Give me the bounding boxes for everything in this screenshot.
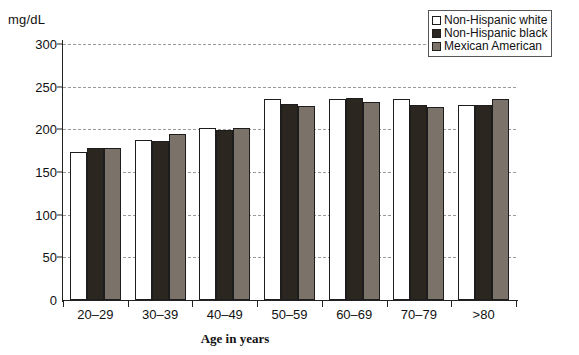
- bar: [492, 99, 509, 300]
- x-axis-tick-mark: [128, 300, 129, 307]
- y-axis-tick-label: 50: [11, 250, 57, 265]
- bar: [87, 148, 104, 300]
- bar-group: [451, 44, 516, 300]
- bar: [233, 128, 250, 300]
- x-axis-tick-mark: [451, 300, 452, 307]
- x-axis-tick-label: 20–29: [77, 307, 113, 322]
- bar: [298, 106, 315, 300]
- legend-swatch-icon: [432, 29, 441, 38]
- legend-item-label: Mexican American: [444, 40, 542, 53]
- bar: [281, 104, 298, 300]
- x-axis-tick-label: 60–69: [336, 307, 372, 322]
- bar: [216, 130, 233, 300]
- bar-group: [63, 44, 128, 300]
- bar-chart: mg/dL 050100150200250300 20–2930–3940–49…: [0, 0, 579, 355]
- legend: Non-Hispanic white Non-Hispanic black Me…: [428, 10, 552, 57]
- bar: [410, 105, 427, 300]
- x-axis-title: Age in years: [0, 331, 470, 347]
- plot-area: [63, 44, 516, 300]
- bar: [104, 148, 121, 300]
- y-axis-line: [62, 40, 63, 302]
- bar-group: [128, 44, 193, 300]
- bar: [70, 152, 87, 300]
- x-axis-line: [62, 300, 518, 301]
- x-axis-tick-label: 70–79: [401, 307, 437, 322]
- x-axis-tick-label: >80: [473, 307, 495, 322]
- bar: [169, 134, 186, 300]
- bar-group: [322, 44, 387, 300]
- x-axis-tick-label: 30–39: [142, 307, 178, 322]
- bar: [475, 105, 492, 300]
- bar: [135, 140, 152, 300]
- x-axis-tick-mark: [257, 300, 258, 307]
- y-axis-tick-label: 150: [11, 165, 57, 180]
- bar: [199, 128, 216, 300]
- x-axis-tick-label: 50–59: [271, 307, 307, 322]
- x-axis-tick-mark: [516, 300, 517, 307]
- bar-group: [192, 44, 257, 300]
- bar: [329, 99, 346, 300]
- bar: [264, 99, 281, 300]
- y-axis-tick-labels: 050100150200250300: [0, 0, 57, 355]
- x-axis-tick-mark: [192, 300, 193, 307]
- x-axis-tick-mark: [322, 300, 323, 307]
- y-axis-tick-label: 300: [11, 37, 57, 52]
- legend-swatch-icon: [432, 16, 441, 25]
- x-axis-tick-mark: [63, 300, 64, 307]
- bar-group: [387, 44, 452, 300]
- legend-item: Mexican American: [432, 40, 547, 53]
- bar: [458, 105, 475, 300]
- bar-group: [257, 44, 322, 300]
- legend-swatch-icon: [432, 42, 441, 51]
- bar: [363, 102, 380, 300]
- bar: [427, 107, 444, 300]
- bar: [152, 141, 169, 300]
- y-axis-tick-label: 250: [11, 79, 57, 94]
- bar: [346, 98, 363, 300]
- y-axis-tick-label: 0: [11, 293, 57, 308]
- y-axis-tick-label: 100: [11, 207, 57, 222]
- x-axis-tick-mark: [387, 300, 388, 307]
- bar: [393, 99, 410, 300]
- y-axis-tick-label: 200: [11, 122, 57, 137]
- x-axis-tick-label: 40–49: [207, 307, 243, 322]
